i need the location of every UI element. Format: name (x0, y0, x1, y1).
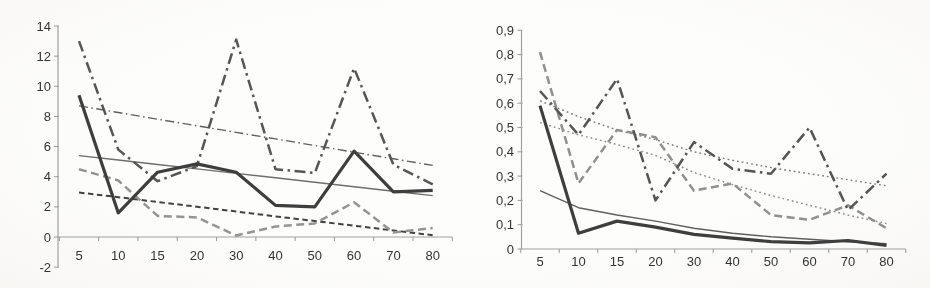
series-trend-dotted-lower (540, 123, 887, 224)
y-tick-label: 12 (37, 49, 51, 64)
x-tick-label: 40 (268, 248, 282, 263)
y-tick-label: 0,6 (496, 96, 514, 111)
series-data-dashdot (79, 40, 433, 185)
y-tick-label: 14 (37, 19, 51, 34)
series-data-solid (79, 95, 433, 213)
x-tick-label: 20 (190, 248, 204, 263)
x-tick-label: 80 (425, 248, 439, 263)
x-tick-label: 10 (111, 248, 125, 263)
x-tick-label: 10 (571, 254, 585, 269)
y-tick-label: 4 (44, 169, 51, 184)
x-tick-label: 15 (610, 254, 624, 269)
x-tick-label: 60 (347, 248, 361, 263)
y-tick-label: 10 (37, 79, 51, 94)
y-tick-label: 0,9 (496, 23, 514, 38)
x-tick-label: 15 (150, 248, 164, 263)
x-tick-label: 20 (648, 254, 662, 269)
series-data-solid (540, 106, 887, 246)
x-tick-label: 30 (229, 248, 243, 263)
y-tick-label: 0,3 (496, 169, 514, 184)
y-tick-label: 0,5 (496, 120, 514, 135)
y-tick-label: 0,1 (496, 217, 514, 232)
x-tick-label: 40 (725, 254, 739, 269)
x-tick-label: 50 (308, 248, 322, 263)
y-tick-label: -2 (39, 260, 51, 275)
x-tick-label: 70 (386, 248, 400, 263)
x-tick-label: 30 (687, 254, 701, 269)
y-tick-label: 0,7 (496, 71, 514, 86)
y-tick-label: 0 (507, 242, 514, 257)
x-tick-label: 5 (75, 248, 82, 263)
x-tick-label: 60 (802, 254, 816, 269)
y-tick-label: 6 (44, 139, 51, 154)
y-tick-label: 0,2 (496, 193, 514, 208)
x-tick-label: 70 (841, 254, 855, 269)
x-tick-label: 80 (879, 254, 893, 269)
series-data-dashdot (540, 79, 887, 210)
y-tick-label: 8 (44, 109, 51, 124)
y-tick-label: 0,4 (496, 144, 514, 159)
series-trend-linear-dashdot (79, 106, 433, 165)
y-tick-label: 0,8 (496, 47, 514, 62)
charts-svg: 14121086420-25101520304050607080 0,90,80… (0, 0, 930, 288)
x-tick-label: 5 (536, 254, 543, 269)
y-tick-label: 2 (44, 199, 51, 214)
x-tick-label: 50 (764, 254, 778, 269)
scanned-page: 14121086420-25101520304050607080 0,90,80… (0, 0, 930, 288)
chart-right: 0,90,80,70,60,50,40,30,20,10510152030405… (496, 23, 906, 269)
chart-left: 14121086420-25101520304050607080 (37, 19, 453, 275)
series-data-dashed-gray (540, 52, 887, 228)
y-tick-label: 0 (44, 230, 51, 245)
